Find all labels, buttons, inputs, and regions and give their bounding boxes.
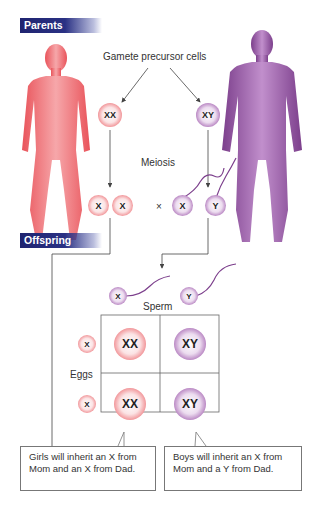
offspring-xx-2: XX <box>114 388 146 420</box>
girls-note: Girls will inherit an X from Mom and an … <box>20 446 156 491</box>
sperm-label: Sperm <box>143 301 172 312</box>
male-silhouette <box>222 30 302 242</box>
sperm-gamete-y: Y <box>205 195 226 216</box>
offspring-xy-1: XY <box>174 328 206 360</box>
punnett-sperm-x: X <box>109 287 127 305</box>
sperm-gamete-x: X <box>172 195 193 216</box>
punnett-sperm-y: Y <box>180 287 198 305</box>
father-precursor-cell: XY <box>196 103 220 127</box>
boys-note: Boys will inherit an X from Mom and a Y … <box>164 446 302 491</box>
offspring-xx-1: XX <box>114 328 146 360</box>
offspring-xy-2: XY <box>174 388 206 420</box>
parents-banner: Parents <box>20 18 102 33</box>
female-silhouette <box>22 44 90 240</box>
eggs-label: Eggs <box>70 369 93 380</box>
egg-gamete-2: X <box>112 195 133 216</box>
mother-precursor-cell: XX <box>98 103 122 127</box>
meiosis-label: Meiosis <box>141 157 175 168</box>
gamete-precursor-label: Gamete precursor cells <box>103 51 206 62</box>
cross-symbol: × <box>156 201 162 212</box>
offspring-banner: Offspring <box>20 233 102 248</box>
diagram-graphics <box>0 0 318 510</box>
egg-gamete-1: X <box>88 195 109 216</box>
punnett-egg-1: X <box>78 335 96 353</box>
punnett-egg-2: X <box>78 395 96 413</box>
